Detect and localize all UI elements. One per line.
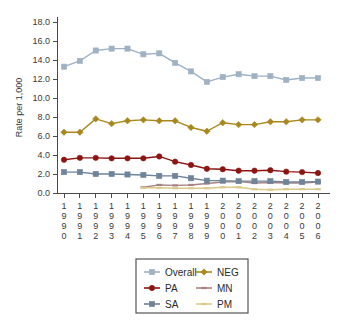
x-tick-digit: 9 xyxy=(157,221,162,231)
data-point-marker xyxy=(188,176,193,181)
data-point-marker xyxy=(149,269,154,274)
x-tick-digit: 9 xyxy=(93,211,98,221)
x-tick-digit: 9 xyxy=(77,211,82,221)
data-point-marker xyxy=(157,154,162,159)
data-point-marker xyxy=(93,48,98,53)
data-point-marker xyxy=(188,162,193,167)
x-tick-digit: 8 xyxy=(188,231,193,241)
x-tick-digit: 0 xyxy=(61,231,66,241)
x-tick-digit: 1 xyxy=(109,201,114,211)
x-tick-digit: 2 xyxy=(268,201,273,211)
x-tick-digit: 9 xyxy=(204,231,209,241)
x-tick-digit: 9 xyxy=(173,221,178,231)
x-tick-digit: 1 xyxy=(157,201,162,211)
data-point-marker xyxy=(204,178,209,183)
data-point-marker xyxy=(268,74,273,79)
x-tick-digit: 2 xyxy=(300,201,305,211)
x-tick-digit: 9 xyxy=(109,211,114,221)
data-point-marker xyxy=(284,169,289,174)
data-point-marker xyxy=(149,301,154,306)
legend-label: SA xyxy=(165,299,179,310)
data-point-marker xyxy=(300,179,305,184)
x-tick-label: 2004 xyxy=(284,201,289,241)
x-tick-label: 1994 xyxy=(125,201,130,241)
data-point-marker xyxy=(109,156,114,161)
data-point-marker xyxy=(315,170,320,175)
series-pa xyxy=(61,154,320,176)
x-tick-digit: 0 xyxy=(252,221,257,231)
data-point-marker xyxy=(268,168,273,173)
x-tick-label: 1995 xyxy=(141,201,146,241)
data-point-marker xyxy=(299,117,305,123)
legend-label: MN xyxy=(217,283,233,294)
chart-svg: 0.02.04.06.08.010.012.014.016.018.0 Rate… xyxy=(0,0,341,322)
x-tick-label: 1998 xyxy=(188,201,193,241)
x-tick-digit: 2 xyxy=(220,201,225,211)
x-tick-digit: 0 xyxy=(315,211,320,221)
x-tick-digit: 1 xyxy=(173,201,178,211)
x-tick-digit: 0 xyxy=(284,221,289,231)
x-tick-digit: 9 xyxy=(61,221,66,231)
data-point-marker xyxy=(267,119,273,125)
x-tick-digit: 5 xyxy=(141,231,146,241)
series-overall xyxy=(61,46,320,84)
data-point-marker xyxy=(284,179,289,184)
data-point-marker xyxy=(77,155,82,160)
x-tick-digit: 9 xyxy=(204,211,209,221)
x-tick-digit: 0 xyxy=(220,221,225,231)
data-point-marker xyxy=(172,159,177,164)
data-point-marker xyxy=(125,156,130,161)
x-tick-digit: 1 xyxy=(204,201,209,211)
x-tick-digit: 1 xyxy=(188,201,193,211)
data-point-marker xyxy=(140,117,146,123)
x-tick-digit: 9 xyxy=(125,221,130,231)
x-tick-digit: 4 xyxy=(125,231,130,241)
data-point-marker xyxy=(77,170,82,175)
x-tick-label: 2003 xyxy=(268,201,273,241)
x-tick-label: 1999 xyxy=(204,201,209,241)
y-tick-label: 14.0 xyxy=(32,55,50,65)
x-tick-digit: 0 xyxy=(220,231,225,241)
data-point-marker xyxy=(284,77,289,82)
data-point-marker xyxy=(188,69,193,74)
x-tick-digit: 6 xyxy=(157,231,162,241)
x-tick-digit: 9 xyxy=(93,221,98,231)
series-line xyxy=(64,49,318,82)
y-tick-label: 8.0 xyxy=(37,112,50,122)
x-tick-digit: 2 xyxy=(252,231,257,241)
x-tick-digit: 3 xyxy=(109,231,114,241)
x-tick-digit: 1 xyxy=(61,201,66,211)
data-point-marker xyxy=(236,168,241,173)
x-tick-label: 1996 xyxy=(157,201,162,241)
y-tick-label: 18.0 xyxy=(32,17,50,27)
x-tick-digit: 0 xyxy=(268,221,273,231)
x-tick-digit: 3 xyxy=(268,231,273,241)
line-chart-figure: 0.02.04.06.08.010.012.014.016.018.0 Rate… xyxy=(0,0,341,322)
y-tick-label: 16.0 xyxy=(32,36,50,46)
x-tick-digit: 9 xyxy=(61,211,66,221)
x-tick-label: 1997 xyxy=(173,201,178,241)
data-point-marker xyxy=(252,168,257,173)
x-tick-digit: 2 xyxy=(315,201,320,211)
data-point-marker xyxy=(77,58,82,63)
series-neg xyxy=(61,116,321,136)
legend-label: PA xyxy=(165,283,178,294)
data-point-marker xyxy=(236,72,241,77)
chart-legend: OverallNEGPAMNSAPM xyxy=(136,259,248,313)
legend-label: Overall xyxy=(165,267,197,278)
y-tick-label: 10.0 xyxy=(32,93,50,103)
x-tick-digit: 2 xyxy=(252,201,257,211)
x-tick-digit: 1 xyxy=(141,201,146,211)
data-point-marker xyxy=(252,74,257,79)
y-tick-label: 0.0 xyxy=(37,188,50,198)
x-tick-digit: 0 xyxy=(300,221,305,231)
series-pm xyxy=(141,187,321,189)
y-tick-label: 4.0 xyxy=(37,150,50,160)
x-tick-digit: 9 xyxy=(77,221,82,231)
data-point-marker xyxy=(204,166,209,171)
x-tick-label: 2006 xyxy=(315,201,320,241)
x-tick-label: 1992 xyxy=(93,201,98,241)
x-tick-digit: 0 xyxy=(268,211,273,221)
y-axis-title: Rate per 1,000 xyxy=(14,78,24,138)
x-tick-label: 1990 xyxy=(61,201,66,241)
